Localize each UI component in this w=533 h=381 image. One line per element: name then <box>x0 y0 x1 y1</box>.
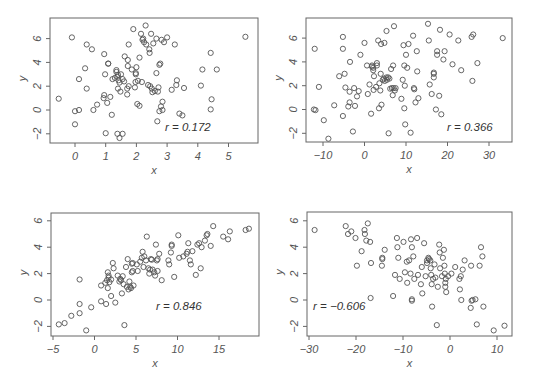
data-point <box>56 322 61 327</box>
data-point <box>432 262 437 267</box>
scatter-panel-bottom-left: −5051015x−20246yr = 0.846 <box>17 213 259 369</box>
data-point <box>200 67 205 72</box>
data-point <box>376 38 381 43</box>
data-point <box>110 260 115 265</box>
data-point <box>89 47 94 52</box>
scatter-panel-top-left: 012345x−20246yr = 0.172 <box>16 18 258 176</box>
scatter-panel-bottom-right: −30−20−10010x−20246yr = −0.606 <box>273 212 512 369</box>
data-point <box>95 102 100 107</box>
data-point <box>89 305 94 310</box>
data-point <box>243 34 248 39</box>
x-tick-label: 5 <box>225 150 232 162</box>
data-point <box>347 89 352 94</box>
data-point <box>405 280 410 285</box>
correlation-label: r = 0.366 <box>447 121 493 133</box>
x-tick-label: −10 <box>394 343 414 355</box>
x-tick-label: 0 <box>72 150 79 162</box>
data-point <box>502 323 507 328</box>
x-tick-label: −20 <box>347 343 367 355</box>
data-point <box>209 97 214 102</box>
data-point <box>69 35 74 40</box>
data-point <box>101 96 106 101</box>
data-point <box>396 255 401 260</box>
data-point <box>157 251 162 256</box>
x-tick-label: 10 <box>171 343 184 355</box>
data-point <box>500 36 505 41</box>
data-point <box>83 66 88 71</box>
x-axis: 012345x <box>72 143 233 176</box>
data-point <box>211 224 216 229</box>
data-point <box>394 235 399 240</box>
data-point <box>362 40 367 45</box>
y-tick-label: −2 <box>32 320 44 333</box>
correlation-label: r = 0.172 <box>165 121 211 133</box>
data-point <box>77 277 82 282</box>
data-point <box>430 304 435 309</box>
data-point <box>243 227 248 232</box>
data-point <box>343 224 348 229</box>
data-point <box>168 250 173 255</box>
data-point <box>343 85 348 90</box>
data-point <box>384 28 389 33</box>
data-point <box>337 74 342 79</box>
data-point <box>422 241 427 246</box>
data-point <box>208 243 213 248</box>
y-axis: −20246y <box>16 35 50 140</box>
data-point <box>143 23 148 28</box>
data-point <box>429 282 434 287</box>
data-point <box>437 242 442 247</box>
data-point <box>460 267 465 272</box>
data-point <box>369 111 374 116</box>
data-point <box>378 88 383 93</box>
data-point <box>147 50 152 55</box>
data-point <box>190 249 195 254</box>
data-point <box>340 113 345 118</box>
data-points <box>312 221 507 333</box>
data-point <box>429 91 434 96</box>
y-tick-label: 0 <box>287 106 299 113</box>
data-point <box>441 57 446 62</box>
data-point <box>365 91 370 96</box>
data-point <box>459 68 464 73</box>
data-point <box>426 38 431 43</box>
data-point <box>109 293 114 298</box>
y-tick-label: −2 <box>31 128 43 141</box>
data-point <box>435 52 440 57</box>
data-point <box>214 67 219 72</box>
data-point <box>474 322 479 327</box>
data-point <box>356 89 361 94</box>
y-axis: −20246y <box>272 34 306 139</box>
data-point <box>352 103 357 108</box>
y-tick-label: 4 <box>287 59 299 65</box>
y-axis: −20246y <box>17 217 51 333</box>
data-point <box>221 234 226 239</box>
data-point <box>326 136 331 141</box>
data-point <box>441 247 446 252</box>
data-point <box>198 83 203 88</box>
y-axis-label: y <box>16 74 28 82</box>
data-point <box>91 107 96 112</box>
y-tick-label: 4 <box>31 59 43 65</box>
data-point <box>456 38 461 43</box>
data-point <box>84 328 89 333</box>
y-tick-label: 0 <box>32 296 44 303</box>
data-point <box>425 21 430 26</box>
data-point <box>368 260 373 265</box>
correlation-label: r = 0.846 <box>156 300 202 312</box>
data-point <box>312 46 317 51</box>
data-point <box>402 83 407 88</box>
data-point <box>347 59 352 64</box>
data-point <box>340 46 345 51</box>
data-point <box>181 85 186 90</box>
data-point <box>415 272 420 277</box>
y-tick-label: −2 <box>287 127 299 140</box>
data-points <box>56 224 251 334</box>
data-point <box>453 264 458 269</box>
data-point <box>103 72 108 77</box>
data-point <box>439 112 444 117</box>
y-tick-label: 6 <box>288 217 300 224</box>
data-point <box>172 42 177 47</box>
data-point <box>312 227 317 232</box>
data-point <box>408 271 413 276</box>
data-point <box>354 94 359 99</box>
